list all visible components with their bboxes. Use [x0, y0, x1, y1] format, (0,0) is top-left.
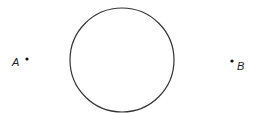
circle — [70, 8, 174, 112]
geometry-diagram: A B — [0, 0, 255, 113]
point-a-label: A — [11, 56, 19, 68]
point-b-label: B — [237, 60, 244, 72]
point-b-dot — [230, 59, 233, 62]
point-a-dot — [25, 57, 28, 60]
point-a: A — [11, 56, 29, 68]
point-b: B — [230, 59, 244, 72]
